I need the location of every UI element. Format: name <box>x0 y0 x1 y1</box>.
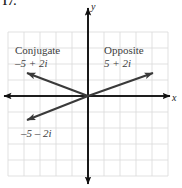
annotation-opposite-title: Opposite <box>104 44 144 56</box>
annotation-conjugate-title: Conjugate <box>15 44 60 56</box>
annotation-negative-conjugate: –5 – 2i <box>21 126 52 139</box>
annotation-negative-conjugate-value: –5 – 2i <box>21 127 52 139</box>
vector-negative-conjugate <box>27 96 88 120</box>
y-axis-label: y <box>91 2 95 12</box>
vector-opposite <box>88 73 153 96</box>
vector-conjugate <box>27 73 88 96</box>
annotation-opposite-value: 5 + 2i <box>104 57 144 69</box>
annotation-conjugate-value: –5 + 2i <box>15 57 60 69</box>
annotation-opposite: Opposite 5 + 2i <box>104 44 144 69</box>
x-axis-label: x <box>172 93 176 103</box>
coordinate-plane-plot <box>0 0 182 188</box>
annotation-conjugate: Conjugate –5 + 2i <box>15 44 60 69</box>
complex-plane-figure: 17. <box>0 0 182 188</box>
